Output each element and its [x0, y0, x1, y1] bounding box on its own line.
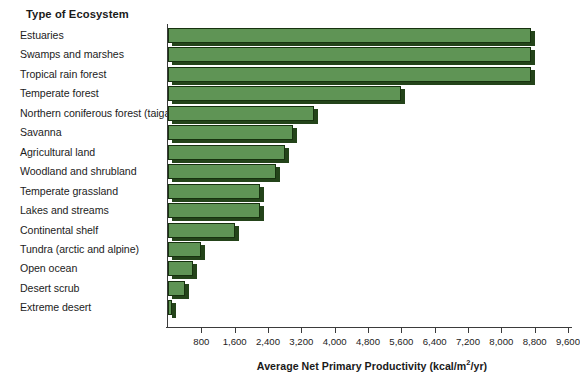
category-label: Savanna — [20, 126, 61, 138]
axis-tick-label: 3,200 — [289, 336, 313, 347]
bar-bottom-face — [172, 101, 405, 104]
value-axis-title-prefix: Average Net Primary Productivity (kcal/m — [257, 360, 466, 372]
bar — [168, 28, 535, 43]
bar-face — [168, 67, 531, 82]
axis-tick-label: 6,400 — [423, 336, 447, 347]
value-axis-title: Average Net Primary Productivity (kcal/m… — [166, 360, 578, 372]
category-label: Agricultural land — [20, 146, 95, 158]
category-label: Extreme desert — [20, 301, 91, 313]
category-label: Tropical rain forest — [20, 68, 106, 80]
bar-face — [168, 125, 293, 140]
axis-tick — [401, 328, 402, 333]
category-label: Desert scrub — [20, 282, 79, 294]
bar-bottom-face — [172, 179, 280, 182]
bar — [168, 203, 264, 218]
axis-tick-label: 8,000 — [489, 336, 513, 347]
bar — [168, 145, 289, 160]
axis-tick — [235, 328, 236, 333]
axis-tick-label: 2,400 — [256, 336, 280, 347]
axis-tick — [268, 328, 269, 333]
category-label: Woodland and shrubland — [20, 165, 137, 177]
category-label: Swamps and marshes — [20, 48, 124, 60]
category-label: Open ocean — [20, 262, 77, 274]
bar — [168, 67, 535, 82]
bar-face — [168, 281, 185, 296]
bar-face — [168, 223, 235, 238]
category-label: Temperate grassland — [20, 185, 118, 197]
bar-bottom-face — [172, 62, 535, 65]
bar-face — [168, 203, 260, 218]
category-label: Temperate forest — [20, 87, 99, 99]
axis-tick — [468, 328, 469, 333]
axis-tick-label: 9,600 — [556, 336, 580, 347]
bar — [168, 184, 264, 199]
axis-tick — [568, 328, 569, 333]
axis-tick-label: 4,000 — [323, 336, 347, 347]
bar-bottom-face — [172, 199, 264, 202]
bar-face — [168, 184, 260, 199]
bar-face — [168, 47, 531, 62]
bar-bottom-face — [172, 82, 535, 85]
bar — [168, 47, 535, 62]
value-axis-title-suffix: /yr) — [470, 360, 487, 372]
axis-tick-label: 1,600 — [223, 336, 247, 347]
value-axis-line — [166, 327, 572, 328]
bar-face — [168, 164, 276, 179]
category-label: Estuaries — [20, 29, 64, 41]
bar — [168, 300, 176, 315]
bar — [168, 125, 297, 140]
axis-tick — [435, 328, 436, 333]
bar — [168, 164, 280, 179]
bar-face — [168, 86, 401, 101]
axis-tick — [201, 328, 202, 333]
bar-bottom-face — [172, 276, 197, 279]
bar-bottom-face — [172, 218, 264, 221]
bar-bottom-face — [172, 315, 176, 318]
bar — [168, 223, 239, 238]
bar — [168, 242, 205, 257]
category-label: Northern coniferous forest (taiga) — [20, 107, 174, 119]
page-title: Type of Ecosystem — [26, 8, 129, 20]
bar-bottom-face — [172, 121, 318, 124]
axis-tick-label: 8,800 — [523, 336, 547, 347]
axis-tick — [368, 328, 369, 333]
bar — [168, 106, 318, 121]
bar-bottom-face — [172, 140, 297, 143]
axis-tick — [501, 328, 502, 333]
axis-tick — [301, 328, 302, 333]
axis-tick — [335, 328, 336, 333]
axis-tick — [535, 328, 536, 333]
bar — [168, 281, 189, 296]
bar-face — [168, 106, 314, 121]
axis-tick-label: 7,200 — [456, 336, 480, 347]
bar-bottom-face — [172, 257, 205, 260]
category-label: Continental shelf — [20, 224, 98, 236]
bar — [168, 86, 405, 101]
bar-face — [168, 261, 193, 276]
bar-bottom-face — [172, 160, 289, 163]
bar-bottom-face — [172, 296, 189, 299]
bar-face — [168, 145, 285, 160]
category-axis: Type of Ecosystem EstuariesSwamps and ma… — [0, 0, 166, 330]
bar-face — [168, 242, 201, 257]
axis-tick-label: 5,600 — [389, 336, 413, 347]
category-label: Lakes and streams — [20, 204, 109, 216]
bar-face — [168, 28, 531, 43]
bar — [168, 261, 197, 276]
plot-area: 8001,6002,4003,2004,0004,8005,6006,4007,… — [166, 0, 578, 330]
axis-tick-label: 800 — [193, 336, 209, 347]
category-label: Tundra (arctic and alpine) — [20, 243, 139, 255]
bar-bottom-face — [172, 238, 239, 241]
bar-bottom-face — [172, 43, 535, 46]
axis-tick-label: 4,800 — [356, 336, 380, 347]
